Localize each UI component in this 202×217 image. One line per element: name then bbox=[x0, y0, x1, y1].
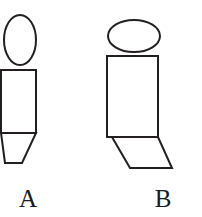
figure-a-head-ellipse bbox=[4, 15, 36, 65]
figure-a-label: A bbox=[8, 186, 48, 211]
figure-a-foot-trapezoid bbox=[1, 133, 36, 163]
figure-canvas: A B bbox=[0, 0, 202, 217]
figure-b-foot-parallelogram bbox=[112, 137, 172, 168]
figure-b-body-rect bbox=[107, 56, 158, 137]
figure-b-label: B bbox=[143, 186, 183, 211]
figure-b-head-ellipse bbox=[108, 20, 160, 52]
figure-b-group bbox=[107, 20, 172, 168]
figure-a-body-rect bbox=[1, 70, 36, 133]
figure-a-group bbox=[1, 15, 36, 163]
